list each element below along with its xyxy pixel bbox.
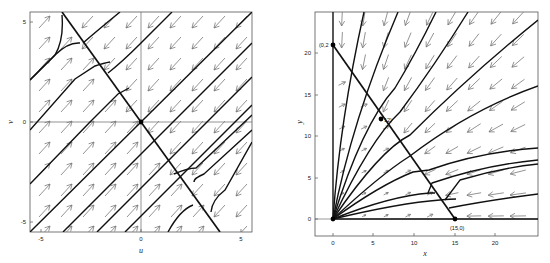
left-ytick-label: -5	[21, 219, 27, 225]
right-ytick-label: 0	[308, 216, 312, 222]
right-xtick-label: 20	[492, 240, 499, 246]
right-ytick-label: 20	[304, 50, 311, 56]
point-label-0-21: (0,2	[319, 42, 328, 48]
point-label-15-0: (15,0)	[450, 225, 465, 231]
left-ytick-label: 5	[23, 19, 27, 25]
right-ylabel: y	[295, 120, 304, 125]
right-equilibrium-15-0	[453, 217, 458, 222]
left-xlabel: u	[139, 246, 143, 255]
point-label-6-12: 12)	[384, 117, 392, 123]
right-ytick-label: 15	[304, 92, 311, 98]
right-equilibrium-6-12	[379, 117, 384, 122]
right-xtick-label: 0	[331, 240, 335, 246]
right-xlabel: x	[422, 249, 427, 258]
figure-canvas: -5 0 5 5 0 -5 u v	[0, 0, 550, 263]
right-phase-portrait: (0,2 12) (15,0) 0 5 10 15 20 20 15 10 5 …	[295, 10, 538, 258]
right-equilibrium-0-21	[331, 43, 336, 48]
right-xtick-label: 5	[371, 240, 375, 246]
left-equilibrium-origin	[139, 120, 144, 125]
left-xtick-label: 0	[139, 236, 143, 242]
left-ytick-label: 0	[23, 119, 27, 125]
right-xtick-label: 10	[411, 240, 418, 246]
figure: -5 0 5 5 0 -5 u v	[0, 0, 550, 263]
left-xtick-label: 5	[239, 236, 243, 242]
right-ytick-label: 5	[308, 175, 312, 181]
left-xtick-label: -5	[38, 236, 44, 242]
right-equilibrium-origin	[331, 217, 336, 222]
right-xtick-label: 15	[452, 240, 459, 246]
right-ytick-label: 10	[304, 133, 311, 139]
left-ylabel: v	[6, 120, 15, 124]
left-phase-portrait: -5 0 5 5 0 -5 u v	[6, 12, 252, 255]
